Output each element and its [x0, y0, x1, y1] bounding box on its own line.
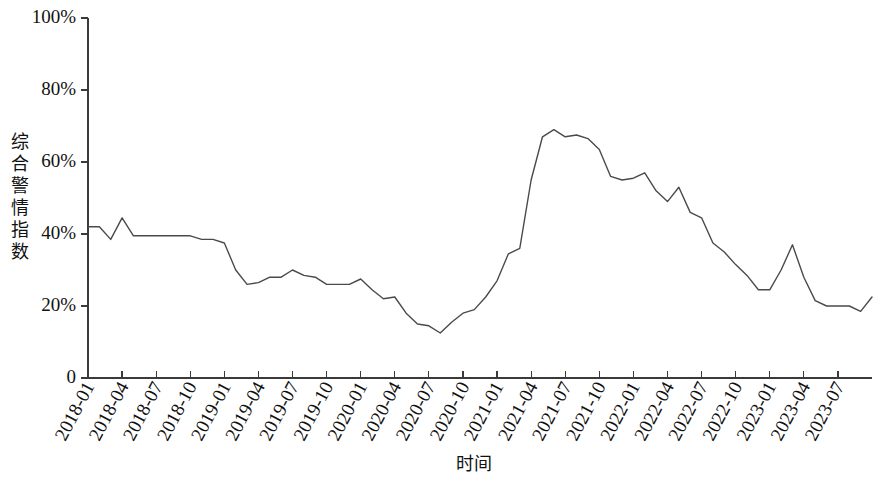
y-axis-title-char: 合	[11, 154, 29, 174]
y-axis-title-char: 情	[11, 198, 29, 218]
y-axis-tick-label: 100%	[32, 6, 77, 27]
y-axis-tick-label: 60%	[41, 150, 76, 171]
chart-container: 020%40%60%80%100% 2018-012018-042018-072…	[0, 0, 874, 478]
y-axis-title-char: 指	[11, 220, 29, 240]
y-axis-title-char: 综	[11, 132, 29, 152]
y-axis-tick-label: 80%	[41, 78, 76, 99]
line-chart-svg: 020%40%60%80%100% 2018-012018-042018-072…	[0, 0, 874, 478]
series-line	[88, 130, 872, 333]
y-axis-tick-label: 20%	[41, 294, 76, 315]
y-axis-title-char: 警	[11, 176, 29, 196]
data-series-group	[88, 130, 872, 333]
x-axis-title: 时间	[456, 454, 492, 474]
y-axis-tick-label: 40%	[41, 222, 76, 243]
y-axis: 020%40%60%80%100%	[32, 6, 88, 387]
y-axis-tick-label: 0	[67, 366, 77, 387]
y-axis-title: 综合警情指数	[11, 132, 29, 262]
y-axis-title-char: 数	[11, 242, 29, 262]
x-axis: 2018-012018-042018-072018-102019-012019-…	[50, 371, 872, 444]
